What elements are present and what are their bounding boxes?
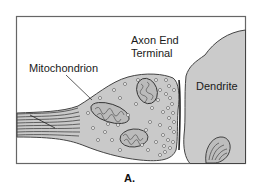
label-dendrite: Dendrite bbox=[196, 80, 238, 92]
synapse-diagram: Mitochondrion Axon End Terminal Dendrite… bbox=[0, 0, 258, 189]
diagram-canvas bbox=[0, 0, 258, 189]
label-mitochondrion: Mitochondrion bbox=[29, 62, 98, 74]
label-axon-terminal-line1: Axon End bbox=[131, 34, 179, 46]
figure-caption: A. bbox=[124, 172, 135, 184]
label-axon-terminal-line2: Terminal bbox=[131, 47, 173, 59]
synaptic-cleft bbox=[179, 80, 180, 150]
